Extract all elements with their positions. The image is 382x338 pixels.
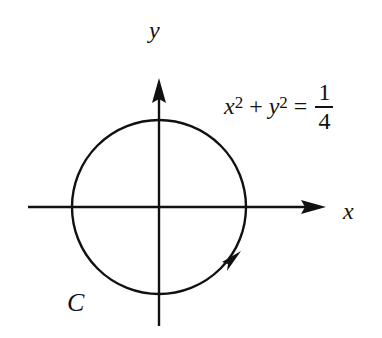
eq-numerator: 1 [318, 80, 330, 105]
circle-equation: x2 + y2 = 1 4 [224, 80, 333, 134]
diagram-svg [0, 0, 382, 338]
x-axis-label: x [343, 199, 354, 223]
eq-equals: = [294, 93, 308, 120]
diagram-canvas: y x C x2 + y2 = 1 4 [0, 0, 382, 338]
eq-var-y: y [269, 93, 280, 120]
eq-fraction: 1 4 [315, 80, 333, 134]
eq-var-x: x [224, 93, 235, 120]
curve-label-c: C [67, 290, 84, 316]
eq-plus: + [249, 93, 263, 120]
y-axis-label: y [149, 18, 160, 42]
eq-denominator: 4 [318, 109, 330, 134]
